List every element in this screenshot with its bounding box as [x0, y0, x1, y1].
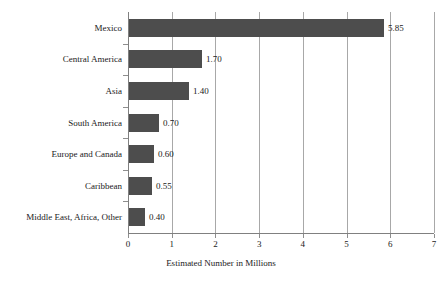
gridline: [347, 12, 348, 233]
gridline: [303, 12, 304, 233]
x-axis-tick: [434, 234, 435, 238]
bar-chart: MexicoCentral AmericaAsiaSouth AmericaEu…: [0, 0, 442, 282]
value-label: 1.70: [206, 54, 222, 64]
y-axis-tick: [123, 138, 128, 139]
y-axis-line: [128, 12, 129, 233]
value-label: 5.85: [388, 23, 404, 33]
bar: [128, 19, 384, 37]
x-tick-label: 6: [380, 239, 400, 250]
x-axis-tick: [215, 234, 216, 238]
y-axis-tick: [123, 75, 128, 76]
value-label: 0.60: [158, 149, 174, 159]
gridline: [259, 12, 260, 233]
value-label: 0.70: [163, 118, 179, 128]
x-axis-tick: [303, 234, 304, 238]
category-label: Mexico: [0, 23, 128, 33]
y-axis-tick: [123, 201, 128, 202]
y-axis-tick: [123, 44, 128, 45]
category-label: Central America: [0, 54, 128, 64]
x-axis-tick: [347, 234, 348, 238]
x-tick-label: 0: [118, 239, 138, 250]
y-axis-tick: [123, 107, 128, 108]
x-tick-label: 7: [424, 239, 442, 250]
x-tick-label: 5: [337, 239, 357, 250]
bar: [128, 208, 145, 226]
category-label: Europe and Canada: [0, 149, 128, 159]
value-label: 1.40: [193, 86, 209, 96]
value-label: 0.40: [149, 212, 165, 222]
x-tick-label: 2: [205, 239, 225, 250]
gridline: [390, 12, 391, 233]
x-axis-line: [128, 233, 434, 234]
x-tick-label: 3: [249, 239, 269, 250]
gridline: [215, 12, 216, 233]
x-axis-tick: [128, 234, 129, 238]
y-axis-tick: [123, 170, 128, 171]
x-axis-tick: [390, 234, 391, 238]
value-label: 0.55: [156, 181, 172, 191]
x-axis-tick: [172, 234, 173, 238]
bar: [128, 114, 159, 132]
bar: [128, 50, 202, 68]
x-tick-label: 1: [162, 239, 182, 250]
x-tick-label: 4: [293, 239, 313, 250]
x-axis-title: Estimated Number in Millions: [0, 258, 442, 268]
bar: [128, 177, 152, 195]
category-label: Middle East, Africa, Other: [0, 212, 128, 222]
x-axis-tick: [259, 234, 260, 238]
bar: [128, 82, 189, 100]
category-label: Asia: [0, 86, 128, 96]
category-label: Caribbean: [0, 181, 128, 191]
gridline: [434, 12, 435, 233]
category-label: South America: [0, 118, 128, 128]
bar: [128, 145, 154, 163]
